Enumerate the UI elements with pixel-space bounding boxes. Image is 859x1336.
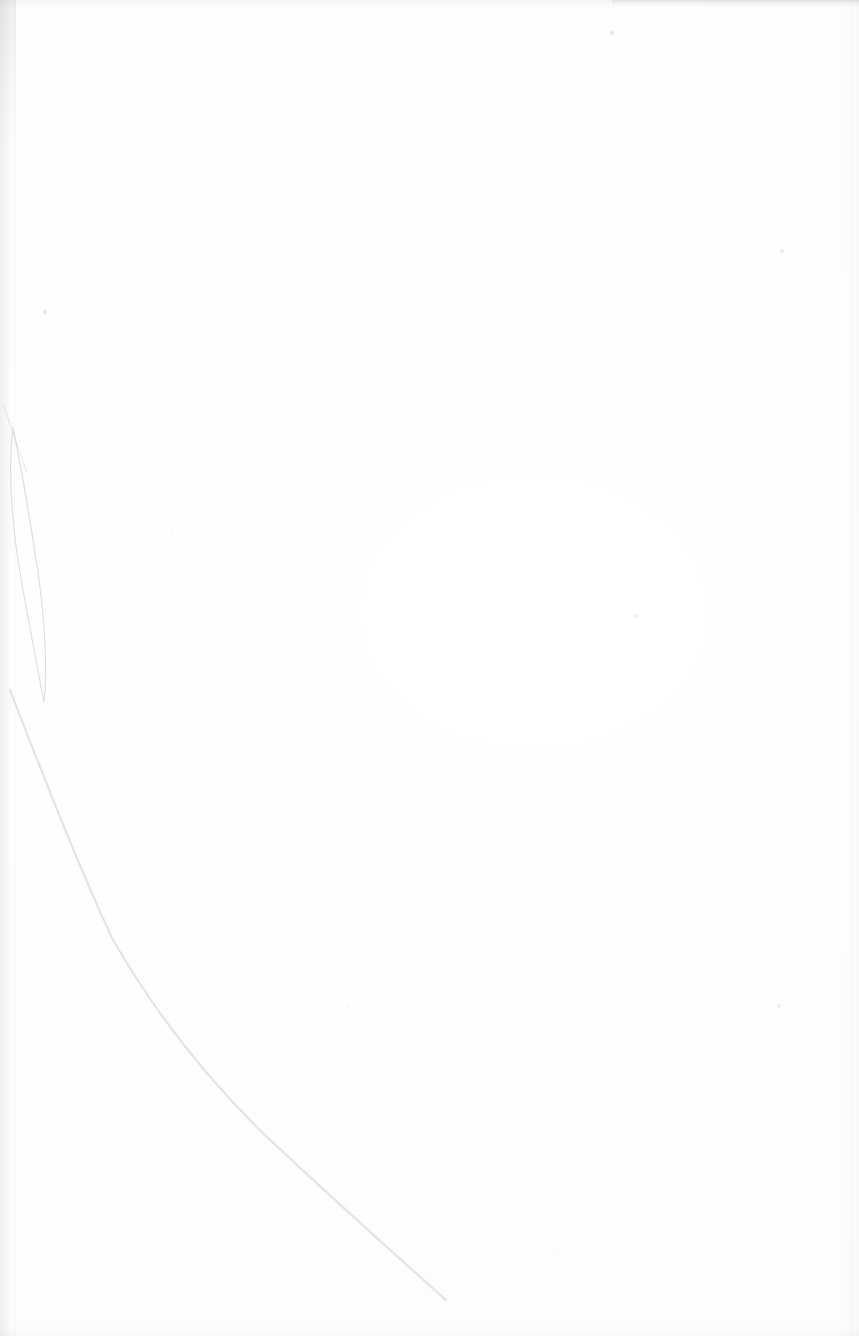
scanned-page (0, 0, 859, 1336)
page-body-text (104, 118, 763, 1228)
page-text-block (0, 0, 859, 1336)
